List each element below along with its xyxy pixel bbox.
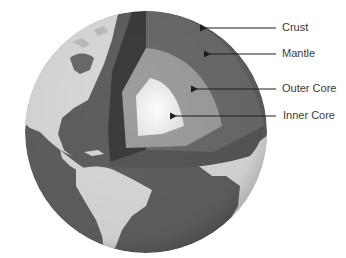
label-inner-core: Inner Core bbox=[283, 110, 335, 121]
earth-layers-diagram bbox=[0, 0, 346, 258]
globe-shading bbox=[25, 11, 267, 253]
label-outer-core: Outer Core bbox=[282, 83, 336, 94]
label-mantle: Mantle bbox=[282, 48, 315, 59]
globe bbox=[20, 11, 272, 254]
label-crust: Crust bbox=[282, 22, 308, 33]
